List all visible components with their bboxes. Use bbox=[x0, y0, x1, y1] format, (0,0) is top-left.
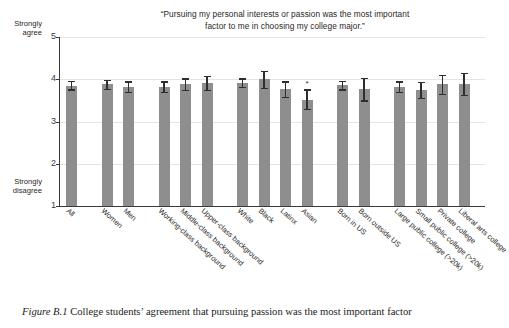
error-bar-cap-lower bbox=[439, 94, 446, 95]
error-bar bbox=[442, 75, 443, 94]
bar bbox=[237, 83, 248, 206]
bar bbox=[202, 83, 213, 206]
error-bar bbox=[399, 81, 400, 92]
error-bar-cap-upper bbox=[68, 81, 75, 82]
error-bar-cap-upper bbox=[418, 82, 425, 83]
bar bbox=[180, 84, 191, 206]
error-bar-cap-upper bbox=[282, 81, 289, 82]
error-bar-cap-upper bbox=[439, 75, 446, 76]
error-bar-cap-upper bbox=[161, 81, 168, 82]
gridline-5 bbox=[60, 37, 485, 38]
error-bar-cap-upper bbox=[239, 78, 246, 79]
error-bar bbox=[463, 73, 464, 95]
error-bar-cap-upper bbox=[304, 89, 311, 90]
x-axis-tick-labels: AllWomenMenWorking-class backgroundMiddl… bbox=[60, 207, 490, 297]
error-bar-cap-lower bbox=[239, 87, 246, 88]
error-bar bbox=[106, 80, 107, 89]
gridline-4 bbox=[60, 79, 485, 80]
bar bbox=[302, 100, 313, 206]
y-axis-tick-labels: 12345 bbox=[38, 37, 56, 206]
bar bbox=[394, 87, 405, 206]
bar bbox=[123, 87, 134, 206]
y-tick-mark-2 bbox=[56, 164, 60, 165]
error-bar-cap-lower bbox=[161, 92, 168, 93]
error-bar-cap-upper bbox=[104, 80, 111, 81]
error-bar-cap-upper bbox=[361, 78, 368, 79]
bar bbox=[66, 86, 77, 206]
error-bar-cap-lower bbox=[125, 92, 132, 93]
bar bbox=[159, 87, 170, 206]
figure-number: Figure B.1 bbox=[22, 306, 68, 317]
error-bar bbox=[71, 81, 72, 89]
error-bar-cap-lower bbox=[461, 95, 468, 96]
chart-title: “Pursuing my personal interests or passi… bbox=[120, 9, 450, 32]
error-bar bbox=[342, 81, 343, 90]
chart-title-line-2: factor to me in choosing my college majo… bbox=[120, 21, 450, 33]
error-bar bbox=[163, 81, 164, 92]
y-axis-anchor-high: Strongly agree bbox=[0, 20, 42, 37]
error-bar-cap-lower bbox=[339, 89, 346, 90]
y-tick-label-4: 4 bbox=[40, 73, 56, 83]
y-axis-anchor-low-line-2: disagree bbox=[0, 187, 42, 196]
bar bbox=[102, 84, 113, 206]
y-tick-mark-4 bbox=[56, 79, 60, 80]
error-bar bbox=[285, 81, 286, 97]
error-bar-cap-upper bbox=[204, 76, 211, 77]
significance-marker: * bbox=[302, 80, 313, 88]
x-axis-label: All bbox=[64, 207, 75, 218]
error-bar bbox=[420, 82, 421, 98]
bar bbox=[359, 89, 370, 206]
y-tick-mark-5 bbox=[56, 37, 60, 38]
bar bbox=[280, 89, 291, 206]
error-bar-cap-lower bbox=[282, 97, 289, 98]
error-bar-cap-lower bbox=[304, 109, 311, 110]
error-bar bbox=[363, 78, 364, 101]
error-bar-cap-lower bbox=[68, 89, 75, 90]
error-bar-cap-upper bbox=[461, 73, 468, 74]
x-axis-label: Women bbox=[100, 207, 124, 230]
y-tick-label-5: 5 bbox=[40, 31, 56, 41]
error-bar-cap-upper bbox=[396, 81, 403, 82]
chart-title-line-1: “Pursuing my personal interests or passi… bbox=[120, 9, 450, 21]
y-tick-mark-3 bbox=[56, 122, 60, 123]
figure-caption-text: College students’ agreement that pursuin… bbox=[70, 306, 412, 317]
error-bar bbox=[128, 81, 129, 92]
error-bar-cap-lower bbox=[261, 88, 268, 89]
error-bar-cap-lower bbox=[204, 90, 211, 91]
bar bbox=[416, 90, 427, 206]
error-bar-cap-lower bbox=[396, 92, 403, 93]
error-bar-cap-lower bbox=[182, 90, 189, 91]
y-tick-label-1: 1 bbox=[40, 200, 56, 210]
plot-area: * bbox=[60, 37, 485, 206]
x-axis-label: Latinx bbox=[278, 207, 298, 226]
error-bar-cap-upper bbox=[339, 81, 346, 82]
x-axis-label: Men bbox=[121, 207, 137, 223]
error-bar bbox=[242, 78, 243, 86]
error-bar-cap-upper bbox=[182, 78, 189, 79]
error-bar-cap-upper bbox=[125, 81, 132, 82]
error-bar bbox=[263, 71, 264, 88]
error-bar-cap-lower bbox=[104, 89, 111, 90]
bar bbox=[459, 84, 470, 206]
error-bar bbox=[206, 76, 207, 90]
x-axis-label: White bbox=[235, 207, 254, 226]
error-bar bbox=[306, 89, 307, 108]
error-bar-cap-lower bbox=[418, 98, 425, 99]
error-bar-cap-upper bbox=[261, 71, 268, 72]
error-bar-cap-lower bbox=[361, 100, 368, 101]
x-axis-label: Asian bbox=[300, 207, 319, 225]
y-tick-label-3: 3 bbox=[40, 116, 56, 126]
figure-caption: Figure B.1 College students’ agreement t… bbox=[22, 305, 488, 318]
bar bbox=[337, 85, 348, 206]
y-axis-anchor-high-line-2: agree bbox=[0, 29, 42, 38]
y-axis-anchor-low: Strongly disagree bbox=[0, 178, 42, 195]
y-tick-label-2: 2 bbox=[40, 158, 56, 168]
error-bar bbox=[185, 78, 186, 89]
bar bbox=[259, 79, 270, 206]
bar bbox=[437, 84, 448, 206]
x-axis-label: Black bbox=[257, 207, 276, 225]
